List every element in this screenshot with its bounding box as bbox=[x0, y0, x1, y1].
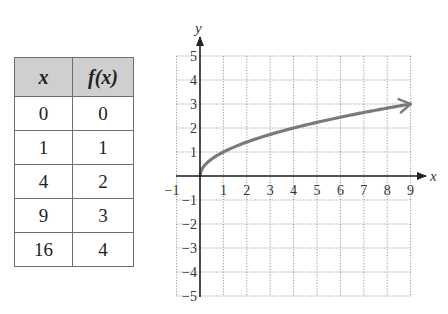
x-tick-label: 9 bbox=[407, 183, 414, 198]
graph: x y −1123456789 54321−1−2−3−4−5 bbox=[0, 0, 448, 314]
y-tick-label: −2 bbox=[182, 217, 197, 232]
x-tick-label: 7 bbox=[360, 183, 367, 198]
x-tick-label: 8 bbox=[384, 183, 391, 198]
x-axis-label: x bbox=[429, 168, 437, 184]
y-tick-label: 3 bbox=[190, 97, 197, 112]
y-axis-label: y bbox=[193, 20, 202, 36]
x-tick-label: 4 bbox=[290, 183, 297, 198]
x-tick-label: 6 bbox=[337, 183, 344, 198]
y-tick-label: −1 bbox=[182, 193, 197, 208]
y-tick-label: 1 bbox=[190, 145, 197, 160]
y-tick-label: −4 bbox=[182, 265, 197, 280]
y-tick-label: −5 bbox=[182, 289, 197, 304]
sqrt-curve bbox=[200, 99, 411, 176]
x-tick-label: 5 bbox=[314, 183, 321, 198]
x-tick-label: 1 bbox=[220, 183, 227, 198]
y-tick-label: 4 bbox=[190, 73, 197, 88]
y-tick-label: 2 bbox=[190, 121, 197, 136]
y-tick-label: 5 bbox=[190, 49, 197, 64]
x-tick-labels: −1123456789 bbox=[165, 183, 415, 198]
y-tick-label: −3 bbox=[182, 241, 197, 256]
x-tick-label: 2 bbox=[243, 183, 250, 198]
x-tick-label: 3 bbox=[267, 183, 274, 198]
x-tick-label: −1 bbox=[165, 183, 180, 198]
